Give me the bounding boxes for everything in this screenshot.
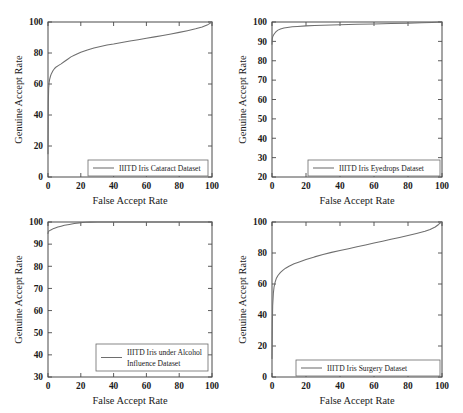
- y-tick-label: 90: [34, 239, 44, 249]
- y-tick-label: 70: [258, 75, 268, 85]
- y-tick-label: 0: [262, 372, 267, 382]
- x-tick-label: 80: [175, 381, 185, 391]
- x-tick-label: 20: [301, 381, 311, 391]
- roc-curve: [48, 222, 212, 234]
- y-tick-label: 100: [253, 17, 267, 27]
- x-axis-title: False Accept Rate: [319, 395, 394, 406]
- legend-label: IIITD Iris Cataract Dataset: [119, 164, 201, 173]
- x-tick-label: 100: [435, 181, 449, 191]
- x-tick-label: 0: [46, 381, 51, 391]
- y-tick-label: 40: [34, 110, 44, 120]
- x-tick-label: 60: [142, 381, 152, 391]
- y-tick-label: 80: [258, 56, 268, 66]
- y-tick-label: 100: [253, 217, 267, 227]
- y-tick-label: 30: [34, 372, 44, 382]
- plot-frame: [272, 22, 442, 177]
- chart-panel-1: 020406080100020406080100False Accept Rat…: [0, 0, 232, 207]
- y-axis-title: Genuine Accept Rate: [237, 255, 248, 344]
- y-tick-label: 20: [34, 141, 44, 151]
- x-tick-label: 40: [109, 381, 119, 391]
- roc-figure: 020406080100020406080100False Accept Rat…: [0, 0, 463, 413]
- plot-frame: [272, 222, 442, 377]
- x-tick-label: 40: [335, 381, 345, 391]
- y-tick-label: 80: [34, 262, 44, 272]
- y-tick-label: 80: [34, 48, 44, 58]
- x-tick-label: 60: [369, 181, 379, 191]
- y-tick-label: 100: [29, 17, 43, 27]
- legend-label: IIITD Iris Eyedrops Dataset: [339, 164, 425, 173]
- roc-curve: [272, 222, 442, 358]
- y-tick-label: 20: [258, 172, 268, 182]
- x-tick-label: 80: [403, 381, 413, 391]
- y-tick-label: 60: [258, 279, 268, 289]
- chart-panel-2: 0204060801002030405060708090100False Acc…: [232, 0, 463, 207]
- x-tick-label: 100: [205, 181, 219, 191]
- y-tick-label: 20: [258, 341, 268, 351]
- chart-panel-4: 020406080100020406080100False Accept Rat…: [232, 206, 463, 413]
- x-tick-label: 100: [205, 381, 219, 391]
- legend: IIITD Iris under AlcoholInfluence Datase…: [96, 344, 208, 371]
- x-tick-label: 0: [46, 181, 51, 191]
- x-tick-label: 100: [435, 381, 449, 391]
- y-tick-label: 90: [258, 37, 268, 47]
- x-axis-title: False Accept Rate: [92, 395, 167, 406]
- x-tick-label: 0: [270, 381, 275, 391]
- y-tick-label: 40: [34, 350, 44, 360]
- legend: IIITD Iris Surgery Dataset: [296, 360, 440, 376]
- y-tick-label: 80: [258, 248, 268, 258]
- legend: IIITD Iris Cataract Dataset: [88, 160, 208, 176]
- y-axis-title: Genuine Accept Rate: [13, 55, 24, 144]
- roc-curve: [48, 22, 212, 154]
- legend: IIITD Iris Eyedrops Dataset: [308, 160, 440, 176]
- x-tick-label: 60: [369, 381, 379, 391]
- x-tick-label: 40: [335, 181, 345, 191]
- y-tick-label: 50: [258, 114, 268, 124]
- y-tick-label: 40: [258, 134, 268, 144]
- y-tick-label: 40: [258, 310, 268, 320]
- y-tick-label: 50: [34, 328, 44, 338]
- y-axis-title: Genuine Accept Rate: [237, 55, 248, 144]
- y-axis-title: Genuine Accept Rate: [13, 255, 24, 344]
- x-axis-title: False Accept Rate: [92, 195, 167, 206]
- x-tick-label: 20: [301, 181, 311, 191]
- x-tick-label: 40: [109, 181, 119, 191]
- x-tick-label: 80: [175, 181, 185, 191]
- y-tick-label: 70: [34, 284, 44, 294]
- legend-label-line2: Influence Dataset: [127, 359, 181, 368]
- chart-panel-3: 02040608010030405060708090100False Accep…: [0, 206, 232, 413]
- y-tick-label: 60: [258, 95, 268, 105]
- x-tick-label: 60: [142, 181, 152, 191]
- roc-curve: [272, 22, 442, 44]
- legend-label: IIITD Iris under Alcohol: [127, 348, 202, 357]
- x-tick-label: 20: [76, 181, 86, 191]
- x-tick-label: 0: [270, 181, 275, 191]
- y-tick-label: 100: [29, 217, 43, 227]
- plot-frame: [48, 22, 212, 177]
- x-tick-label: 80: [403, 181, 413, 191]
- y-tick-label: 0: [38, 172, 43, 182]
- legend-label: IIITD Iris Surgery Dataset: [327, 364, 408, 373]
- y-tick-label: 60: [34, 79, 44, 89]
- x-axis-title: False Accept Rate: [319, 195, 394, 206]
- y-tick-label: 60: [34, 306, 44, 316]
- x-tick-label: 20: [76, 381, 86, 391]
- y-tick-label: 30: [258, 153, 268, 163]
